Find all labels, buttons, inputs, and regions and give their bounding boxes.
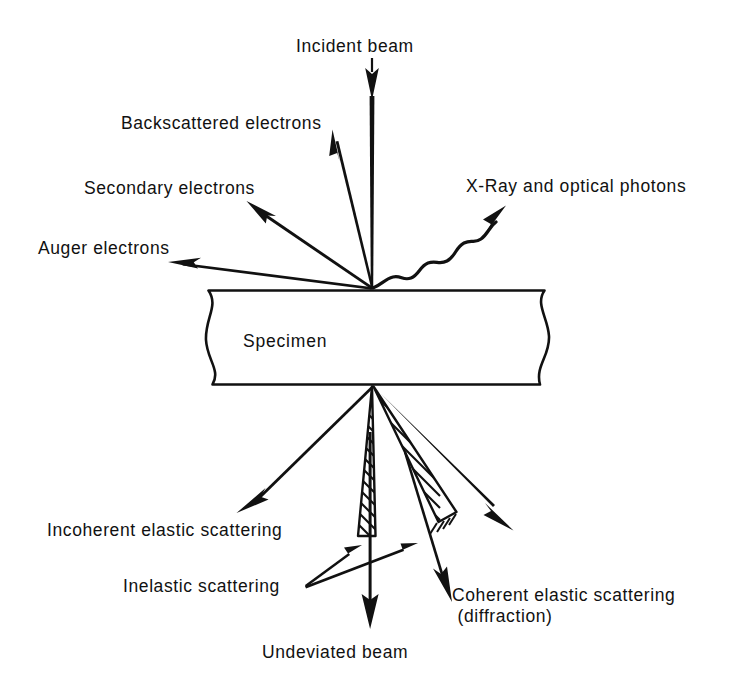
inelastic-leader-left-shaft <box>305 553 350 587</box>
label-secondary-electrons: Secondary electrons <box>84 178 255 198</box>
xray-photons-wavy-shaft <box>373 222 496 288</box>
undeviated-beam-shaft <box>369 432 372 600</box>
incoherent-elastic-scattering-shaft <box>257 386 373 500</box>
incident-beam-arrowhead <box>365 68 379 100</box>
inelastic-leader-right-arrowhead <box>396 543 419 553</box>
label-incoherent-elastic-scattering: Incoherent elastic scattering <box>47 520 282 540</box>
xray-optical-photons-ray <box>373 206 506 289</box>
inelastic-leader-left-arrowhead <box>342 545 363 558</box>
coherent-elastic-outer-ray <box>373 386 513 531</box>
inelastic-leader-right-shaft <box>305 549 404 589</box>
label-backscattered-electrons: Backscattered electrons <box>121 113 322 133</box>
label-auger-electrons: Auger electrons <box>38 238 170 258</box>
specimen-label: Specimen <box>243 331 327 351</box>
coherent-elastic-outer-arrowhead <box>484 503 514 531</box>
beam-specimen-interaction-diagram: Specimen <box>0 0 742 685</box>
label-inelastic-scattering: Inelastic scattering <box>123 576 280 596</box>
coherent-cone-fringes <box>430 514 456 534</box>
inelastic-scattering-cone <box>330 376 400 590</box>
incoherent-elastic-scattering-ray <box>237 386 374 513</box>
coherent-cone-hatching <box>360 332 440 568</box>
xray-photons-arrowhead <box>483 206 506 233</box>
specimen-slab: Specimen <box>206 291 549 385</box>
diffraction-arrow-shaft <box>404 451 444 577</box>
auger-electrons-arrowhead <box>168 258 201 269</box>
label-xray-optical-photons: X-Ray and optical photons <box>466 176 686 196</box>
incident-beam-shaft <box>370 96 375 289</box>
incident-beam-ray <box>365 58 379 289</box>
diagram-canvas: Specimen <box>0 0 742 685</box>
label-undeviated-beam: Undeviated beam <box>262 642 408 662</box>
incident-beam-tail <box>371 58 373 72</box>
auger-electrons-ray <box>168 258 373 290</box>
inelastic-cone-hatching <box>330 376 400 590</box>
label-coherent-elastic-scattering-sub: (diffraction) <box>457 606 552 626</box>
auger-electrons-shaft <box>183 263 373 290</box>
label-incident-beam: Incident beam <box>296 36 414 56</box>
inelastic-scattering-leaders <box>305 543 418 588</box>
label-coherent-elastic-scattering: Coherent elastic scattering <box>452 585 675 605</box>
